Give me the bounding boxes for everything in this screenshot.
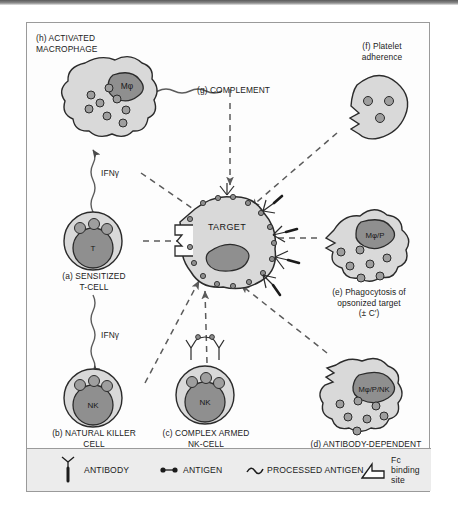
legend-label-antibody: ANTIBODY [84, 465, 129, 475]
cell-platelet [350, 75, 408, 138]
complex-armed-nk-nucleus-label: NK [199, 398, 211, 407]
cell-sensitized-tcell: T [64, 212, 122, 270]
legend-bar: ANTIBODY ANTIGEN PROCESSED ANTIGEN Fc bi… [27, 448, 431, 491]
macrophage-nucleus-label: Mφ [121, 81, 134, 91]
label-sensitized-tcell: (a) SENSITIZED T-CELL [35, 271, 153, 292]
target-fc-binding-site [175, 225, 193, 256]
processed-antigen-icon [245, 464, 265, 476]
target-antibody-stems [273, 196, 299, 295]
label-ifng-nk: IFNγ [101, 330, 119, 341]
wavy-arrow-ifng-to-nk [91, 295, 95, 373]
label-platelet-adherence: (f) Platelet adherence [340, 41, 424, 62]
legend-label-fc-binding-site: Fc binding site [391, 455, 431, 485]
label-complex-armed-nk: (c) COMPLEX ARMED NK-CELL [145, 428, 267, 449]
arrow-complexarmed-to-target [205, 291, 207, 363]
nk-nucleus-label: NK [87, 401, 99, 410]
adcc-nucleus-label: Mφ/P/NK [358, 385, 389, 394]
antigen-icon [159, 464, 179, 476]
label-ifng-macrophage: IFNγ [101, 168, 119, 179]
figure-panel: Mφ T NK [26, 22, 430, 492]
legend-label-processed-antigen: PROCESSED ANTIGEN [267, 465, 364, 475]
legend-label-antigen: ANTIGEN [183, 465, 222, 475]
label-phagocytosis: (e) Phagocytosis of opsonized target (± … [310, 287, 428, 319]
cell-natural-killer: NK [64, 369, 122, 427]
cell-phagocytosis: Mφ/P [326, 210, 409, 282]
platelet-membrane [350, 75, 408, 138]
tcell-nucleus-label: T [91, 244, 96, 253]
fc-binding-site-icon [360, 459, 388, 481]
complex-armed-antibodies [186, 337, 224, 360]
arrow-nk-to-target [145, 281, 199, 383]
cell-activated-macrophage: Mφ [62, 57, 157, 137]
macrophage-membrane [62, 57, 157, 137]
target-label: TARGET [208, 222, 246, 232]
phagocytosis-nucleus-label: Mφ/P [366, 231, 385, 240]
arrow-platelet-to-target [251, 133, 337, 207]
cell-adcc: Mφ/P/NK [320, 358, 402, 435]
target-cell: TARGET [175, 183, 299, 295]
label-activated-macrophage: (h) ACTIVATED MACROPHAGE [36, 33, 98, 54]
cell-complex-armed-nk: NK [176, 335, 234, 424]
label-complement: (g) COMPLEMENT [197, 85, 270, 96]
page-top-edge-band [0, 0, 458, 5]
label-natural-killer-cell: (b) NATURAL KILLER CELL [33, 428, 155, 449]
antibody-icon [57, 455, 79, 485]
